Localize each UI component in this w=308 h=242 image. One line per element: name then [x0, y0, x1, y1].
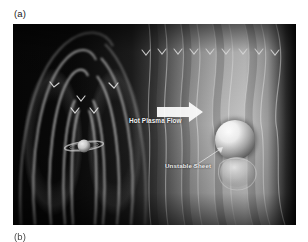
panel-caption-a: (a)	[14, 9, 26, 19]
magnetosphere-illustration	[13, 24, 296, 225]
panel-caption-b: (b)	[14, 232, 26, 242]
magnetosphere-image-panel: Hot Plasma Flow Unstable Sheet	[13, 24, 296, 225]
panel-vignette	[13, 24, 296, 225]
